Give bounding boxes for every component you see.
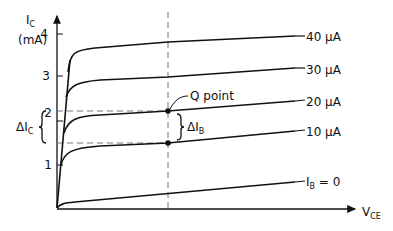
curve-40ua: [68, 36, 295, 72]
y-tick-2: 2: [44, 106, 52, 120]
curve-label-10ua: 10 μA: [306, 125, 342, 139]
curve-label-20ua: 20 μA: [306, 95, 342, 109]
curve-30ua: [66, 68, 295, 97]
y-axis-unit: (mA): [18, 33, 47, 47]
curve-label-ib-0: IB = 0: [306, 175, 340, 191]
y-tick-3: 3: [42, 69, 50, 83]
curve-label-40ua: 40 μA: [306, 30, 342, 44]
q-point-label: Q point: [190, 89, 234, 103]
transistor-characteristics-diagram: 4 3 2 1 IC (mA) VCE 40 μA 30 μA 20 μA 10…: [0, 0, 393, 231]
delta-ic-label: ΔIC: [16, 120, 34, 136]
x-axis-label: VCE: [362, 205, 381, 221]
curve-10ua: [61, 131, 295, 165]
curve-label-30ua: 30 μA: [306, 63, 342, 77]
y-axis-label: IC: [26, 13, 36, 29]
curve-20ua: [64, 101, 295, 133]
q-point-marker: [165, 108, 171, 114]
lower-operating-point: [165, 140, 171, 146]
delta-ib-label: ΔIB: [187, 120, 204, 136]
curve-ib-0: [57, 182, 295, 208]
y-tick-1: 1: [44, 158, 52, 172]
